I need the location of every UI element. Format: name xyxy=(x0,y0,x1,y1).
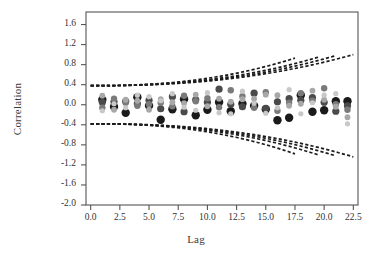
data-point xyxy=(146,101,152,107)
data-point xyxy=(263,92,269,98)
x-axis-title: Lag xyxy=(166,233,226,245)
data-point xyxy=(287,87,292,92)
data-point xyxy=(216,110,221,115)
data-point xyxy=(298,111,303,116)
data-point xyxy=(111,96,117,102)
data-point xyxy=(111,101,116,106)
data-point xyxy=(239,103,246,110)
data-point xyxy=(320,106,328,114)
data-point xyxy=(215,86,222,93)
data-point xyxy=(285,114,293,122)
data-point xyxy=(275,92,281,98)
data-point xyxy=(181,93,187,99)
data-point xyxy=(344,107,350,113)
data-point xyxy=(228,87,234,93)
y-tick-label: 0.4 xyxy=(42,78,76,88)
data-point xyxy=(216,104,222,110)
data-point xyxy=(333,104,339,110)
data-point xyxy=(181,105,186,110)
data-point xyxy=(322,93,327,98)
data-point xyxy=(298,90,304,96)
data-point xyxy=(216,96,222,102)
data-point xyxy=(205,103,211,109)
x-tick-label: 10.0 xyxy=(194,212,220,222)
y-tick-label: -1.2 xyxy=(42,158,76,168)
data-point xyxy=(286,103,292,109)
y-tick-label: 0.0 xyxy=(42,98,76,108)
data-point xyxy=(134,98,140,104)
data-point xyxy=(274,98,281,105)
x-tick-label: 17.5 xyxy=(282,212,308,222)
data-point xyxy=(298,101,304,107)
x-tick-label: 5.0 xyxy=(136,212,162,222)
x-tick-label: 2.5 xyxy=(107,212,133,222)
data-point xyxy=(252,101,257,106)
data-point xyxy=(158,98,163,103)
y-tick-label: 1.6 xyxy=(42,18,76,28)
y-tick-label: -2.0 xyxy=(42,198,76,208)
data-point xyxy=(146,107,152,113)
data-point xyxy=(321,85,327,91)
data-point xyxy=(123,105,128,110)
y-tick-label: -0.4 xyxy=(42,118,76,128)
data-point xyxy=(193,98,199,104)
data-point xyxy=(157,105,164,112)
data-point xyxy=(273,116,281,124)
x-tick-label: 12.5 xyxy=(224,212,250,222)
data-point xyxy=(251,90,258,97)
y-axis-title: Correlation xyxy=(11,59,23,159)
data-point xyxy=(310,100,315,105)
x-tick-label: 20.0 xyxy=(311,212,337,222)
data-point xyxy=(263,111,268,116)
y-tick-label: 1.2 xyxy=(42,38,76,48)
data-point xyxy=(345,121,350,126)
data-point xyxy=(193,108,198,113)
data-point xyxy=(275,105,280,110)
data-point xyxy=(310,88,316,94)
data-point xyxy=(100,108,105,113)
x-tick-label: 0.0 xyxy=(78,212,104,222)
data-point xyxy=(193,92,199,98)
y-tick-label: -0.8 xyxy=(42,138,76,148)
x-tick-label: 7.5 xyxy=(165,212,191,222)
data-point xyxy=(123,97,129,103)
data-point xyxy=(228,99,234,105)
y-tick-label: 0.8 xyxy=(42,58,76,68)
data-point xyxy=(333,91,338,96)
data-point xyxy=(308,108,316,116)
x-tick-label: 15.0 xyxy=(253,212,279,222)
data-point xyxy=(205,90,210,95)
data-point xyxy=(204,95,210,101)
data-point xyxy=(99,93,105,99)
data-point xyxy=(135,93,140,98)
data-point xyxy=(146,94,151,99)
correlogram-chart: Correlation Lag 1.61.20.80.40.0-0.4-0.8-… xyxy=(0,0,376,260)
data-point xyxy=(228,111,233,116)
data-point xyxy=(240,96,246,102)
data-point xyxy=(240,89,245,94)
data-point xyxy=(111,107,117,113)
data-point xyxy=(169,99,175,105)
data-point xyxy=(345,114,351,120)
y-tick-label: -1.6 xyxy=(42,178,76,188)
data-point xyxy=(157,116,165,124)
data-point xyxy=(170,91,175,96)
x-tick-label: 22.5 xyxy=(340,212,366,222)
